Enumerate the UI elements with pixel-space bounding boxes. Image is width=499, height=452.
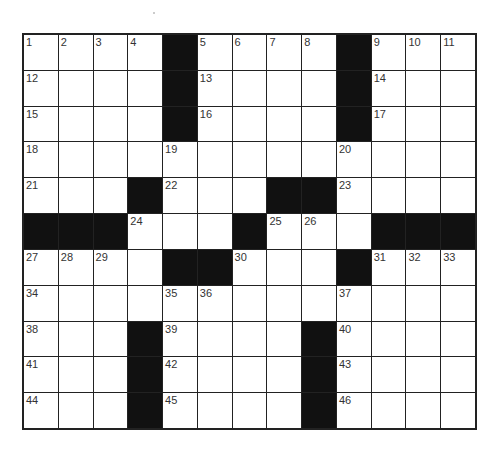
- grid-cell[interactable]: [337, 214, 371, 249]
- grid-cell[interactable]: 8: [302, 35, 336, 70]
- grid-cell[interactable]: 3: [94, 35, 128, 70]
- grid-cell[interactable]: [302, 107, 336, 142]
- grid-cell[interactable]: [406, 393, 440, 428]
- grid-cell[interactable]: [406, 142, 440, 177]
- grid-cell[interactable]: [372, 178, 406, 213]
- grid-cell[interactable]: 29: [94, 250, 128, 285]
- grid-cell[interactable]: 35: [163, 286, 197, 321]
- grid-cell[interactable]: [441, 322, 475, 357]
- grid-cell[interactable]: 6: [233, 35, 267, 70]
- grid-cell[interactable]: 27: [24, 250, 58, 285]
- grid-cell[interactable]: [94, 142, 128, 177]
- grid-cell[interactable]: [441, 142, 475, 177]
- grid-cell[interactable]: 18: [24, 142, 58, 177]
- grid-cell[interactable]: [59, 142, 93, 177]
- grid-cell[interactable]: [233, 286, 267, 321]
- grid-cell[interactable]: [59, 393, 93, 428]
- grid-cell[interactable]: [267, 286, 301, 321]
- grid-cell[interactable]: 40: [337, 322, 371, 357]
- grid-cell[interactable]: [372, 393, 406, 428]
- grid-cell[interactable]: [59, 322, 93, 357]
- grid-cell[interactable]: [406, 107, 440, 142]
- grid-cell[interactable]: 2: [59, 35, 93, 70]
- grid-cell[interactable]: 9: [372, 35, 406, 70]
- grid-cell[interactable]: [233, 107, 267, 142]
- grid-cell[interactable]: [406, 71, 440, 106]
- grid-cell[interactable]: 38: [24, 322, 58, 357]
- grid-cell[interactable]: [267, 357, 301, 392]
- grid-cell[interactable]: [441, 71, 475, 106]
- grid-cell[interactable]: [372, 322, 406, 357]
- grid-cell[interactable]: [406, 286, 440, 321]
- grid-cell[interactable]: [94, 357, 128, 392]
- grid-cell[interactable]: [198, 357, 232, 392]
- grid-cell[interactable]: [59, 107, 93, 142]
- grid-cell[interactable]: [128, 71, 162, 106]
- grid-cell[interactable]: 42: [163, 357, 197, 392]
- grid-cell[interactable]: [59, 178, 93, 213]
- grid-cell[interactable]: [198, 322, 232, 357]
- grid-cell[interactable]: 24: [128, 214, 162, 249]
- grid-cell[interactable]: 21: [24, 178, 58, 213]
- grid-cell[interactable]: 23: [337, 178, 371, 213]
- grid-cell[interactable]: [163, 214, 197, 249]
- grid-cell[interactable]: [128, 286, 162, 321]
- grid-cell[interactable]: [267, 142, 301, 177]
- grid-cell[interactable]: [233, 71, 267, 106]
- grid-cell[interactable]: 5: [198, 35, 232, 70]
- grid-cell[interactable]: 45: [163, 393, 197, 428]
- grid-cell[interactable]: [233, 322, 267, 357]
- grid-cell[interactable]: 31: [372, 250, 406, 285]
- grid-cell[interactable]: 30: [233, 250, 267, 285]
- grid-cell[interactable]: [302, 286, 336, 321]
- grid-cell[interactable]: [198, 178, 232, 213]
- grid-cell[interactable]: [267, 393, 301, 428]
- grid-cell[interactable]: 33: [441, 250, 475, 285]
- grid-cell[interactable]: [94, 322, 128, 357]
- grid-cell[interactable]: [267, 250, 301, 285]
- grid-cell[interactable]: 13: [198, 71, 232, 106]
- grid-cell[interactable]: [198, 393, 232, 428]
- grid-cell[interactable]: [59, 286, 93, 321]
- grid-cell[interactable]: 43: [337, 357, 371, 392]
- grid-cell[interactable]: [302, 250, 336, 285]
- grid-cell[interactable]: 25: [267, 214, 301, 249]
- grid-cell[interactable]: [198, 214, 232, 249]
- grid-cell[interactable]: [94, 107, 128, 142]
- grid-cell[interactable]: 41: [24, 357, 58, 392]
- grid-cell[interactable]: 22: [163, 178, 197, 213]
- grid-cell[interactable]: 39: [163, 322, 197, 357]
- grid-cell[interactable]: [267, 71, 301, 106]
- grid-cell[interactable]: [441, 357, 475, 392]
- grid-cell[interactable]: 26: [302, 214, 336, 249]
- grid-cell[interactable]: [372, 286, 406, 321]
- grid-cell[interactable]: [128, 107, 162, 142]
- grid-cell[interactable]: 14: [372, 71, 406, 106]
- grid-cell[interactable]: [441, 393, 475, 428]
- grid-cell[interactable]: [441, 178, 475, 213]
- grid-cell[interactable]: [233, 357, 267, 392]
- grid-cell[interactable]: 44: [24, 393, 58, 428]
- grid-cell[interactable]: 37: [337, 286, 371, 321]
- grid-cell[interactable]: [372, 142, 406, 177]
- grid-cell[interactable]: [267, 107, 301, 142]
- grid-cell[interactable]: 34: [24, 286, 58, 321]
- grid-cell[interactable]: 46: [337, 393, 371, 428]
- grid-cell[interactable]: 12: [24, 71, 58, 106]
- grid-cell[interactable]: [94, 286, 128, 321]
- grid-cell[interactable]: 10: [406, 35, 440, 70]
- grid-cell[interactable]: 7: [267, 35, 301, 70]
- grid-cell[interactable]: [59, 357, 93, 392]
- grid-cell[interactable]: [441, 107, 475, 142]
- grid-cell[interactable]: 11: [441, 35, 475, 70]
- grid-cell[interactable]: [267, 322, 301, 357]
- grid-cell[interactable]: 17: [372, 107, 406, 142]
- grid-cell[interactable]: [406, 322, 440, 357]
- grid-cell[interactable]: [372, 357, 406, 392]
- grid-cell[interactable]: 20: [337, 142, 371, 177]
- grid-cell[interactable]: [302, 142, 336, 177]
- grid-cell[interactable]: [94, 71, 128, 106]
- grid-cell[interactable]: [94, 178, 128, 213]
- grid-cell[interactable]: 15: [24, 107, 58, 142]
- grid-cell[interactable]: [128, 250, 162, 285]
